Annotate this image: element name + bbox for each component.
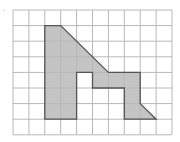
grid-figure [0,0,180,142]
